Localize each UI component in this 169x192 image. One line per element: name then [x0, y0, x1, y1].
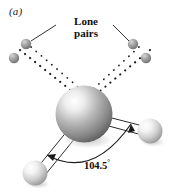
hydrogen-atom-right: [138, 119, 163, 144]
lone-pair-sphere-left-lower: [9, 53, 19, 63]
panel-label: (a): [9, 5, 22, 17]
bond-angle-value: 104.5: [84, 160, 107, 171]
lone-pairs-label: Lone pairs: [56, 16, 116, 39]
oxygen-atom: [56, 86, 113, 143]
lone-pairs-label-line1: Lone: [56, 16, 116, 28]
lone-pair-dots-left-outer: [20, 50, 78, 96]
lone-pair-sphere-right-lower: [141, 53, 151, 63]
lone-pairs-label-line2: pairs: [56, 28, 116, 40]
degree-symbol: °: [107, 158, 110, 166]
water-molecule-figure: (a) Lone pairs 104.5°: [0, 0, 169, 192]
hydrogen-atom-left: [23, 161, 48, 186]
lone-pair-dots-left-inner: [31, 47, 84, 92]
bond-angle-label: 104.5°: [84, 158, 110, 171]
lone-pair-dots-right-inner: [90, 47, 139, 92]
lone-pair-sphere-left-upper: [21, 39, 31, 49]
lone-pair-sphere-right-upper: [128, 39, 138, 49]
leader-line-left: [31, 25, 56, 41]
